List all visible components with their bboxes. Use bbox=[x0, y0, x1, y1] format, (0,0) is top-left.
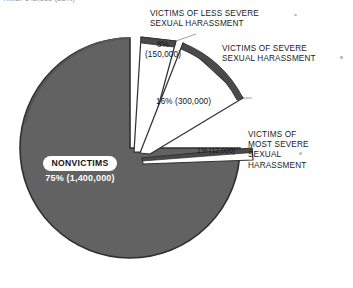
scan-speck bbox=[340, 56, 343, 59]
value-most-severe: 1% (12,000) bbox=[197, 146, 259, 156]
scan-speck bbox=[299, 152, 302, 155]
value-severe: 16% (300,000) bbox=[156, 97, 242, 107]
label-severe: VICTIMS OF SEVERE SEXUAL HARASSMENT bbox=[222, 44, 316, 64]
label-less-severe: VICTIMS OF LESS SEVERE SEXUAL HARASSMENT bbox=[150, 9, 259, 29]
callout-nonvictims: NONVICTIMS 75% (1,400,000) bbox=[28, 152, 132, 183]
value-less-severe: 8% (150,000) bbox=[133, 40, 193, 61]
pie-chart-figure: TIME: 142,000 (23%) bbox=[0, 0, 353, 288]
scan-speck bbox=[294, 14, 297, 16]
value-nonvictims: 75% (1,400,000) bbox=[28, 173, 132, 183]
nonvictims-pill-label: NONVICTIMS bbox=[43, 156, 118, 171]
